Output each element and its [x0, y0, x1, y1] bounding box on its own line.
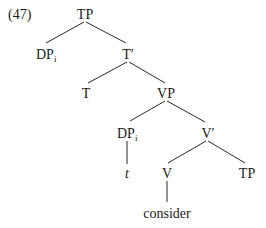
example-number: (47) — [8, 7, 32, 23]
node-verb-consider: consider — [143, 206, 191, 221]
edge-vbar-tp — [208, 141, 245, 163]
node-v-head: V — [162, 166, 172, 181]
node-root-tp: TP — [77, 7, 94, 22]
edge-vp-dp — [130, 101, 165, 121]
node-vp: VP — [157, 86, 175, 101]
edge-tbar-vp — [129, 62, 165, 83]
node-dp-spec: DPi — [36, 47, 57, 64]
node-t-bar: T′ — [122, 47, 134, 62]
node-tp-complement: TP — [239, 166, 256, 181]
edge-tbar-t — [88, 62, 127, 83]
edge-tp-tbar — [86, 22, 126, 43]
node-trace: t — [125, 166, 130, 181]
edge-vp-vbar — [167, 101, 205, 122]
node-v-bar: V′ — [201, 126, 214, 141]
syntax-tree: (47) TP DPi T′ T VP DPi V′ t V TP consid… — [0, 0, 266, 228]
node-t-head: T — [82, 86, 91, 101]
node-dp-trace: DPi — [117, 126, 138, 143]
tree-edges — [46, 22, 245, 202]
edge-tp-dp — [46, 22, 84, 43]
edge-vbar-v — [168, 141, 206, 163]
